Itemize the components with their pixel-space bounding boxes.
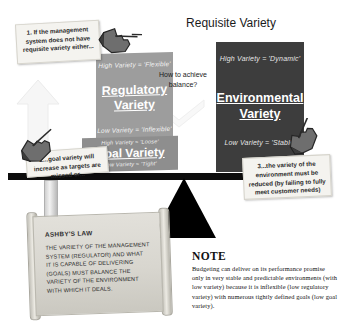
pointing-hand-icon <box>96 24 142 60</box>
scroll-paper: ASHBY'S LAW THE VARIETY OF THE MANAGEMEN… <box>32 212 163 316</box>
regulatory-low-label: Low Variety = 'Inflexible' <box>96 124 173 135</box>
pointing-hand-icon <box>16 128 62 166</box>
ashbys-law-scroll[interactable]: ASHBY'S LAW THE VARIETY OF THE MANAGEMEN… <box>24 205 174 318</box>
regulatory-variety-box[interactable]: High Variety = 'Flexible' Regulatory Var… <box>96 52 173 140</box>
note-block: NOTE Budgeting can deliver on its perfor… <box>192 250 338 310</box>
note-heading: NOTE <box>192 250 338 263</box>
environmental-high-label: High Variety = 'Dynamic' <box>216 54 304 64</box>
annotation-note-1[interactable]: 1. If the management system does not hav… <box>15 20 101 65</box>
pointing-hand-icon <box>284 118 326 158</box>
ashby-heading: ASHBY'S LAW <box>45 227 149 238</box>
note-body: Budgeting can deliver on its performance… <box>192 264 338 310</box>
balance-question: How to achieve balance? <box>146 70 220 89</box>
page-title: Requisite Variety <box>176 16 286 30</box>
diagram-canvas: High Variety = 'Flexible' Regulatory Var… <box>0 0 340 332</box>
ashby-body: THE VARIETY OF THE MANAGEMENT SYSTEM (RE… <box>45 240 151 295</box>
annotation-note-3[interactable]: 3...the variety of the environment must … <box>242 154 332 200</box>
